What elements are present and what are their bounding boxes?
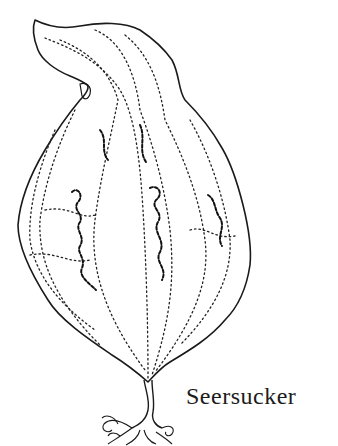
seersucker-kelp-illustration [0, 0, 338, 446]
holdfast [102, 416, 173, 445]
stipe [132, 380, 162, 428]
blade-outline [18, 20, 251, 382]
illustration-caption: Seersucker [186, 383, 296, 410]
